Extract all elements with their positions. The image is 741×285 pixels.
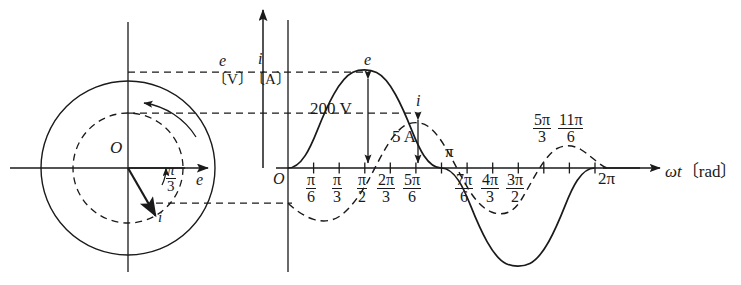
current-amplitude-label: 5 A [392, 128, 416, 145]
waveform-axes [263, 10, 660, 272]
figure-canvas: O e i π 3 e 〔V〕 i 〔A〕 O e i 200 V 5 A π … [0, 0, 741, 285]
waveform-voltage-curve-label: e [364, 52, 371, 68]
pi-tick-label: π [445, 143, 454, 160]
legend-current-unit: 〔A〕 [250, 72, 291, 87]
legend-voltage-symbol: e [219, 53, 226, 69]
tick-label-7pi-over-6: 7π6 [455, 172, 473, 206]
legend-voltage-unit: 〔V〕 [212, 72, 253, 87]
tick-label-4pi-over-3: 4π3 [481, 172, 499, 206]
tick-label-5pi-over-6: 5π6 [403, 172, 421, 206]
phasor-current-label: i [158, 210, 162, 225]
waveform-origin-label: O [273, 171, 285, 187]
phasor-voltage-label: e [196, 172, 203, 188]
tick-label-2pi-over-3: 2π3 [377, 172, 395, 206]
phase-angle-label: π 3 [166, 163, 176, 195]
tick-label-3pi-over-2: 3π2 [506, 172, 524, 206]
tick-label-pi-over-6: π6 [306, 172, 316, 206]
phasor-origin-label: O [110, 139, 122, 156]
voltage-amplitude-label: 200 V [310, 100, 352, 117]
omega-t-symbol: ωt [665, 162, 682, 181]
rad-unit: 〔rad〕 [682, 162, 738, 181]
tick-label-11pi-over-6: 11π6 [558, 112, 583, 146]
waveform-current-curve-label: i [416, 93, 420, 109]
tick-label-pi-over-2: π2 [357, 172, 367, 206]
x-axis-title: ωt〔rad〕 [665, 163, 737, 180]
current-phasor-arrow [128, 168, 156, 216]
tick-label-pi-over-3: π3 [332, 172, 342, 206]
tick-label-5pi-over-3: 5π3 [533, 112, 551, 146]
legend-current-symbol: i [258, 51, 262, 67]
two-pi-tick-label: 2π [598, 170, 615, 187]
